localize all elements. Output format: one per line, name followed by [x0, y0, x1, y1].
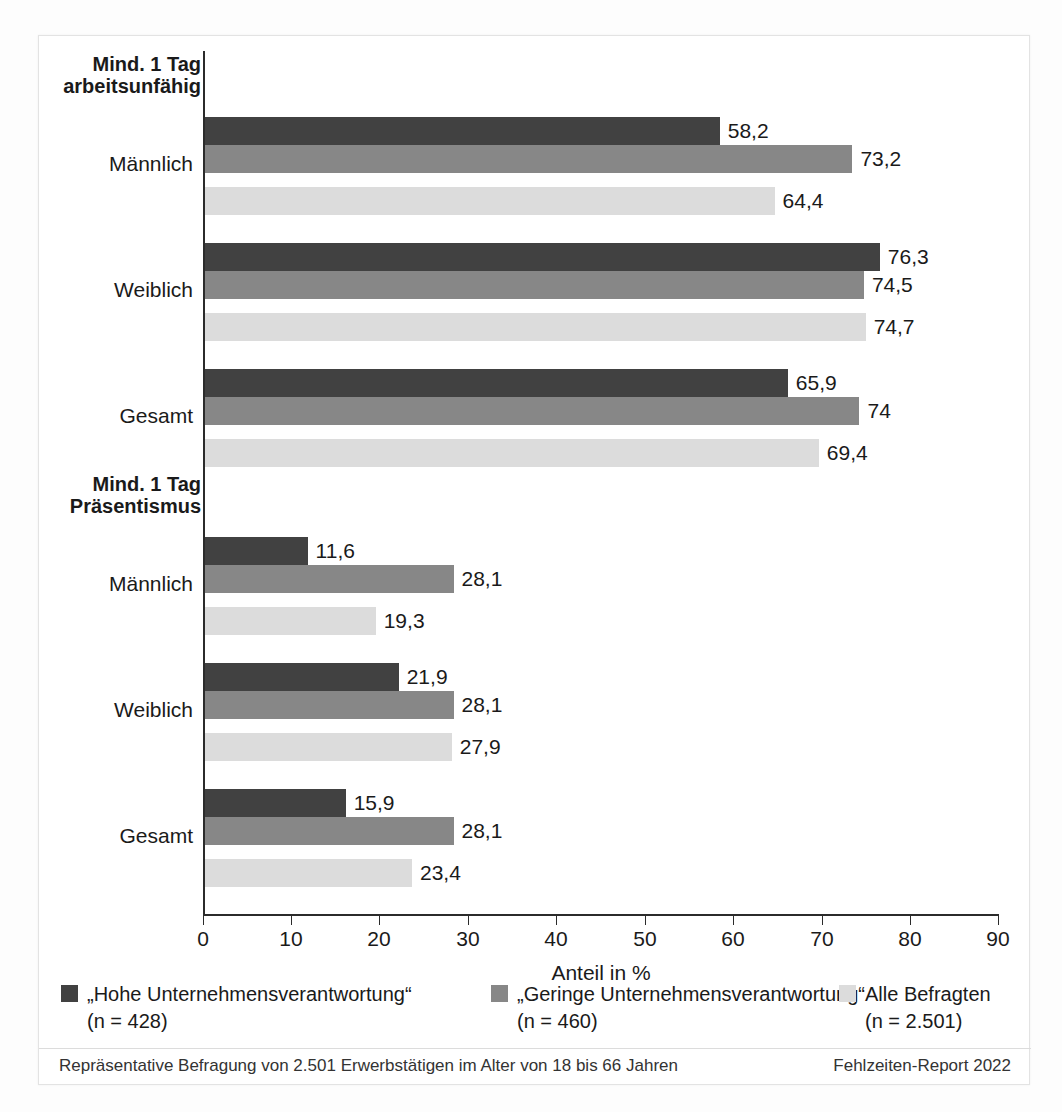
x-tick-label-90: 90 — [986, 927, 1009, 951]
legend-label: „Geringe Unternehmensverantwortung“(n = … — [517, 981, 865, 1035]
group-label-weiblich: Weiblich — [0, 698, 193, 722]
chart-legend: „Hohe Unternehmensverantwortung“(n = 428… — [39, 981, 1031, 1043]
bar-value-label: 28,1 — [462, 691, 503, 719]
bar — [205, 859, 412, 887]
legend-swatch-icon — [61, 985, 78, 1002]
bar-value-label: 11,6 — [316, 537, 355, 565]
legend-label: „Hohe Unternehmensverantwortung“(n = 428… — [87, 981, 412, 1035]
x-axis-line — [203, 914, 999, 916]
chart-page: 0 10 20 30 40 50 60 70 80 90 Anteil in %… — [0, 0, 1062, 1112]
bar-value-label: 27,9 — [460, 733, 501, 761]
chart-footer: Repräsentative Befragung von 2.501 Erwer… — [39, 1048, 1031, 1083]
x-tick-label-30: 30 — [456, 927, 479, 951]
x-tick-0 — [203, 916, 204, 925]
section-header-line2: Präsentismus — [0, 495, 201, 517]
bar-value-label: 23,4 — [420, 859, 461, 887]
bar-value-label: 74 — [867, 397, 890, 425]
group-label-gesamt: Gesamt — [0, 404, 193, 428]
legend-swatch-icon — [839, 985, 856, 1002]
bar — [205, 607, 376, 635]
bar — [205, 439, 819, 467]
footer-source: Fehlzeiten-Report 2022 — [833, 1056, 1011, 1076]
section-header-line1: Mind. 1 Tag — [0, 473, 201, 495]
group-label-gesamt: Gesamt — [0, 824, 193, 848]
bar — [205, 117, 720, 145]
bar-value-label: 74,7 — [874, 313, 915, 341]
group-label-männlich: Männlich — [0, 152, 193, 176]
legend-label: Alle Befragten(n = 2.501) — [865, 981, 991, 1035]
bar-value-label: 74,5 — [872, 271, 913, 299]
group-label-weiblich: Weiblich — [0, 278, 193, 302]
x-tick-50 — [645, 916, 646, 925]
footer-note: Repräsentative Befragung von 2.501 Erwer… — [59, 1056, 678, 1076]
x-tick-70 — [822, 916, 823, 925]
bar — [205, 537, 308, 565]
bar — [205, 733, 452, 761]
x-tick-label-20: 20 — [367, 927, 390, 951]
bar — [205, 145, 852, 173]
bar — [205, 187, 775, 215]
y-axis-line — [203, 51, 205, 916]
x-tick-90 — [998, 916, 999, 925]
bar — [205, 663, 399, 691]
x-tick-label-10: 10 — [279, 927, 302, 951]
bar-value-label: 65,9 — [796, 369, 837, 397]
x-tick-label-40: 40 — [544, 927, 567, 951]
bar — [205, 271, 864, 299]
x-tick-80 — [910, 916, 911, 925]
bar — [205, 817, 454, 845]
section-header-line2: arbeitsunfähig — [0, 75, 201, 97]
bar-value-label: 15,9 — [354, 789, 395, 817]
bar — [205, 397, 859, 425]
bar — [205, 369, 788, 397]
legend-series-name: Alle Befragten — [865, 981, 991, 1008]
x-tick-40 — [556, 916, 557, 925]
legend-series-n: (n = 2.501) — [865, 1008, 991, 1035]
bar-value-label: 28,1 — [462, 817, 503, 845]
chart-frame: 0 10 20 30 40 50 60 70 80 90 Anteil in %… — [38, 35, 1030, 1085]
x-tick-label-60: 60 — [721, 927, 744, 951]
x-tick-60 — [733, 916, 734, 925]
bar-value-label: 28,1 — [462, 565, 503, 593]
x-tick-label-50: 50 — [633, 927, 656, 951]
legend-series-name: „Geringe Unternehmensverantwortung“ — [517, 981, 865, 1008]
x-tick-30 — [468, 916, 469, 925]
bar-value-label: 21,9 — [407, 663, 448, 691]
bar-value-label: 19,3 — [384, 607, 425, 635]
bar-value-label: 76,3 — [888, 243, 929, 271]
legend-series-n: (n = 428) — [87, 1008, 412, 1035]
section-header-1: Mind. 1 TagPräsentismus — [0, 473, 201, 518]
plot-area: 0 10 20 30 40 50 60 70 80 90 Anteil in %… — [39, 36, 1031, 1086]
bar-value-label: 69,4 — [827, 439, 868, 467]
section-header-line1: Mind. 1 Tag — [0, 53, 201, 75]
bar-value-label: 73,2 — [860, 145, 901, 173]
legend-series-n: (n = 460) — [517, 1008, 865, 1035]
x-tick-20 — [379, 916, 380, 925]
section-header-0: Mind. 1 Tagarbeitsunfähig — [0, 53, 201, 98]
bar — [205, 565, 454, 593]
bar — [205, 313, 866, 341]
bar-value-label: 64,4 — [783, 187, 824, 215]
legend-series-name: „Hohe Unternehmensverantwortung“ — [87, 981, 412, 1008]
x-tick-label-0: 0 — [197, 927, 209, 951]
bar — [205, 691, 454, 719]
x-tick-10 — [291, 916, 292, 925]
legend-swatch-icon — [491, 985, 508, 1002]
x-tick-label-70: 70 — [810, 927, 833, 951]
bar — [205, 243, 880, 271]
bar-value-label: 58,2 — [728, 117, 769, 145]
bar — [205, 789, 346, 817]
x-tick-label-80: 80 — [898, 927, 921, 951]
group-label-männlich: Männlich — [0, 572, 193, 596]
